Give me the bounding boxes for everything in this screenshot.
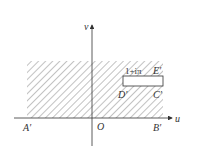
shaded-region bbox=[27, 61, 163, 118]
slit-label: 1+iπ bbox=[125, 66, 142, 76]
slit-rectangle bbox=[123, 76, 163, 86]
origin-label: O bbox=[97, 121, 104, 132]
v-axis-label: v bbox=[84, 21, 89, 32]
point-c-label: C′ bbox=[153, 89, 163, 100]
point-d-label: D′ bbox=[117, 89, 128, 100]
diagram-canvas: v u O A′ B′ C′ D′ E′ 1+iπ bbox=[0, 0, 199, 149]
point-b-label: B′ bbox=[153, 122, 162, 133]
u-axis-label: u bbox=[175, 113, 180, 124]
point-a-label: A′ bbox=[22, 122, 32, 133]
point-e-label: E′ bbox=[152, 65, 162, 76]
